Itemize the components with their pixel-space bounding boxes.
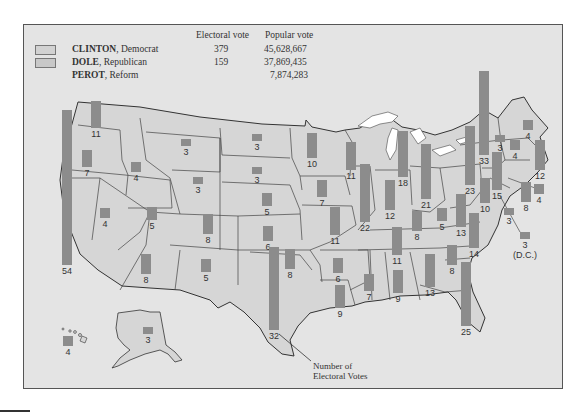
electoral-vote-label: 11 xyxy=(323,236,347,246)
electoral-bar-wy xyxy=(193,177,203,184)
dole-swatch xyxy=(35,58,56,68)
electoral-vote-label: 3 xyxy=(136,335,160,345)
electoral-vote-label: 4 xyxy=(124,173,148,183)
electoral-vote-label: 14 xyxy=(462,249,486,259)
candidate-party: , Republican xyxy=(99,57,147,67)
perot-popular: 7,874,283 xyxy=(270,70,308,80)
electoral-bar-ar xyxy=(333,258,343,273)
electoral-bar-nm xyxy=(201,259,211,272)
electoral-bar-ok xyxy=(285,249,295,269)
electoral-vote-label: 9 xyxy=(328,309,352,319)
electoral-vote-label: 8 xyxy=(405,232,429,242)
electoral-bar-or xyxy=(82,150,92,167)
electoral-bar-in xyxy=(385,180,395,210)
electoral-bar-ne xyxy=(262,193,272,206)
dc-label: (D.C.) xyxy=(507,250,543,260)
electoral-bar-mi xyxy=(398,131,408,177)
electoral-bar-co xyxy=(203,214,213,234)
electoral-bar-la xyxy=(335,285,345,308)
electoral-vote-label: 11 xyxy=(84,129,108,139)
electoral-vote-label: 4 xyxy=(56,347,80,357)
electoral-vote-label: 11 xyxy=(385,256,409,266)
electoral-bar-ut xyxy=(147,207,157,220)
electoral-vote-label: 4 xyxy=(527,195,551,205)
electoral-bar-az xyxy=(141,254,151,274)
electoral-vote-label: 54 xyxy=(55,266,79,276)
electoral-bar-ks xyxy=(263,226,273,241)
electoral-bar-nj xyxy=(492,152,502,190)
electoral-vote-label: 3 xyxy=(245,142,269,152)
electoral-bar-hi xyxy=(63,336,73,346)
popular-vote-header: Popular vote xyxy=(265,30,313,40)
electoral-vote-label: 9 xyxy=(386,294,410,304)
electoral-bar-mo xyxy=(330,207,340,235)
electoral-bar-wa xyxy=(91,101,101,128)
electoral-vote-label: 3 xyxy=(174,147,198,157)
electoral-vote-label: 7 xyxy=(357,292,381,302)
electoral-bar-id xyxy=(131,162,141,172)
electoral-bar-ak xyxy=(143,327,153,334)
electoral-vote-label: 32 xyxy=(262,331,286,341)
electoral-vote-label: 15 xyxy=(485,191,509,201)
electoral-bar-mt xyxy=(181,139,191,146)
electoral-vote-label: 8 xyxy=(196,235,220,245)
electoral-bar-nh xyxy=(510,140,520,150)
electoral-vote-label: 3 xyxy=(497,216,521,226)
electoral-vote-label: 4 xyxy=(503,151,527,161)
dole-electoral: 159 xyxy=(214,57,228,67)
electoral-bar-nv xyxy=(100,208,110,218)
electoral-vote-label: 10 xyxy=(300,159,324,169)
clinton-swatch xyxy=(35,45,56,55)
electoral-bar-ia xyxy=(317,180,327,197)
electoral-vote-label: 13 xyxy=(418,288,442,298)
electoral-bar-dc xyxy=(520,232,530,239)
electoral-bar-ky xyxy=(412,211,422,231)
electoral-vote-label: 12 xyxy=(378,211,402,221)
annotation-line-2: Electoral Votes xyxy=(313,371,367,381)
electoral-bar-vt xyxy=(495,135,505,142)
electoral-vote-label: 4 xyxy=(93,219,117,229)
electoral-vote-label: 6 xyxy=(326,274,350,284)
electoral-vote-label: 12 xyxy=(528,171,552,181)
electoral-vote-label: 23 xyxy=(458,186,482,196)
electoral-vote-label: 21 xyxy=(414,200,438,210)
electoral-vote-label: 3 xyxy=(513,240,537,250)
electoral-bar-ga xyxy=(425,254,435,287)
electoral-bar-il xyxy=(360,164,370,222)
electoral-bar-oh xyxy=(421,144,431,199)
electoral-vote-label: 5 xyxy=(255,207,279,217)
electoral-vote-label: 13 xyxy=(449,228,473,238)
electoral-vote-label: 5 xyxy=(194,273,218,283)
electoral-vote-label: 8 xyxy=(278,270,302,280)
electoral-vote-label: 3 xyxy=(186,185,210,195)
electoral-bar-tn xyxy=(392,227,402,255)
electoral-vote-label: 3 xyxy=(245,175,269,185)
candidate-name: PEROT xyxy=(72,70,105,80)
candidate-party: , Reform xyxy=(105,70,139,80)
electoral-bar-al xyxy=(393,270,403,293)
electoral-vote-label: 25 xyxy=(454,327,478,337)
electoral-bar-wv xyxy=(437,208,447,221)
candidate-party: , Democrat xyxy=(116,44,158,54)
electoral-bar-tx xyxy=(269,247,279,330)
electoral-bar-ri xyxy=(534,184,544,194)
annotation-line-1: Number of xyxy=(313,361,367,371)
electoral-vote-label: 7 xyxy=(75,168,99,178)
electoral-bar-me xyxy=(523,120,533,130)
candidate-name: DOLE xyxy=(72,57,99,67)
electoral-vote-label: 8 xyxy=(440,266,464,276)
electoral-bar-ma xyxy=(535,140,545,170)
candidate-name: CLINTON xyxy=(72,44,116,54)
annotation-label: Number of Electoral Votes xyxy=(313,361,367,381)
electoral-bar-sd xyxy=(252,167,262,174)
dole-popular: 37,869,435 xyxy=(264,57,307,67)
electoral-bar-ms xyxy=(364,274,374,291)
electoral-bar-de xyxy=(504,208,514,215)
electoral-vote-label: 8 xyxy=(134,275,158,285)
clinton-electoral: 379 xyxy=(214,44,228,54)
electoral-vote-label: 10 xyxy=(473,204,497,214)
electoral-bar-nd xyxy=(252,134,262,141)
electoral-vote-label: 5 xyxy=(140,221,164,231)
electoral-vote-label: 22 xyxy=(353,223,377,233)
electoral-bar-sc xyxy=(447,245,457,265)
